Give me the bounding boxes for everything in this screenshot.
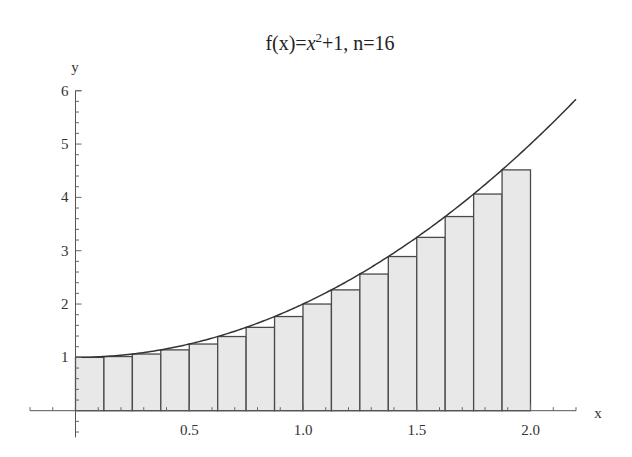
bar	[474, 194, 502, 411]
y-tick-label: 4	[61, 189, 69, 205]
y-tick-label: 3	[61, 243, 69, 259]
bar	[445, 217, 473, 411]
x-tick-label: 1.0	[294, 422, 313, 438]
x-tick-label: 1.5	[407, 422, 426, 438]
y-axis-label: y	[71, 59, 79, 75]
y-tick-label: 2	[61, 296, 69, 312]
bar	[132, 354, 160, 411]
bar	[246, 327, 274, 410]
bar	[104, 357, 132, 411]
bar	[161, 350, 189, 411]
riemann-bars	[76, 170, 531, 411]
bar	[360, 274, 388, 411]
bar	[388, 257, 416, 411]
x-tick-label: 2.0	[521, 422, 540, 438]
bar	[218, 337, 246, 411]
bar	[331, 290, 359, 411]
y-tick-label: 5	[61, 136, 69, 152]
riemann-sum-chart: f(x)=x2+1, n=16 0.51.01.52.0123456 x y	[0, 0, 632, 457]
y-tick-label: 6	[61, 83, 69, 99]
x-axis-label: x	[594, 405, 602, 421]
x-tick-label: 0.5	[180, 422, 199, 438]
bar	[189, 344, 217, 411]
bar	[303, 304, 331, 411]
bar	[76, 357, 104, 410]
bar	[417, 237, 445, 410]
bar	[275, 317, 303, 411]
bar	[502, 170, 530, 411]
chart-title: f(x)=x2+1, n=16	[265, 30, 394, 55]
y-tick-label: 1	[61, 349, 69, 365]
